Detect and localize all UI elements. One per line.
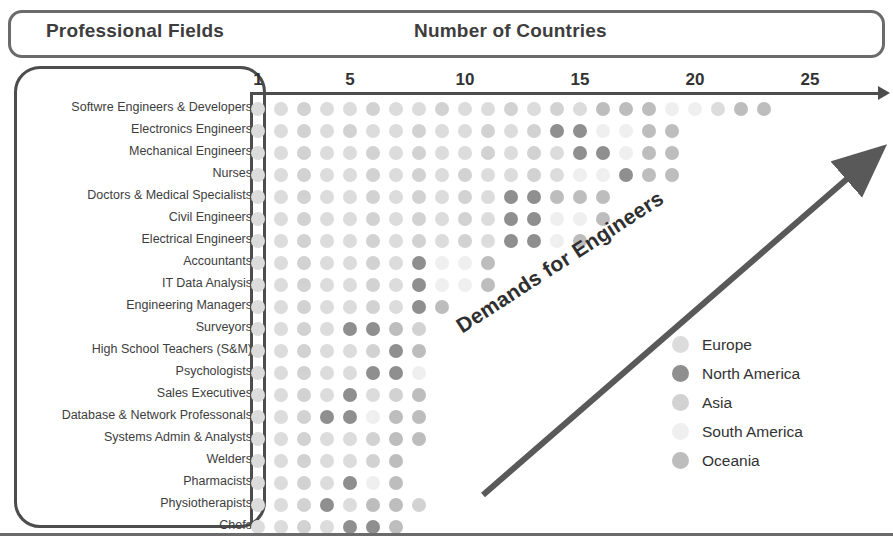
dot-marker — [274, 168, 288, 182]
dot-marker — [412, 322, 426, 336]
dot-marker — [251, 146, 265, 160]
dot-marker — [504, 124, 518, 138]
dot-marker — [412, 498, 426, 512]
dot-marker — [320, 520, 334, 534]
dot-marker — [343, 124, 357, 138]
dot-marker — [573, 212, 587, 226]
dot-marker — [320, 146, 334, 160]
dot-marker — [504, 234, 518, 248]
dot-marker — [412, 388, 426, 402]
dot-marker — [573, 124, 587, 138]
dot-marker — [389, 520, 403, 534]
dot-marker — [596, 168, 610, 182]
dot-marker — [435, 278, 449, 292]
x-tick-label: 5 — [345, 70, 354, 90]
x-axis-line — [252, 92, 882, 95]
dot-marker — [458, 168, 472, 182]
dot-marker — [297, 190, 311, 204]
dot-marker — [412, 278, 426, 292]
dot-marker — [297, 520, 311, 534]
dot-marker — [343, 102, 357, 116]
legend-item[interactable]: North America — [672, 359, 887, 388]
dot-marker — [435, 234, 449, 248]
dot-marker — [343, 366, 357, 380]
dot-marker — [412, 234, 426, 248]
dot-marker — [251, 432, 265, 446]
dot-marker — [527, 168, 541, 182]
dot-marker — [389, 124, 403, 138]
dot-marker — [389, 344, 403, 358]
dot-marker — [642, 168, 656, 182]
dot-marker — [343, 168, 357, 182]
dot-marker — [366, 234, 380, 248]
dot-marker — [550, 190, 564, 204]
header-number-of-countries: Number of Countries — [414, 20, 607, 42]
dot-marker — [274, 146, 288, 160]
dot-marker — [366, 146, 380, 160]
dot-marker — [343, 454, 357, 468]
dot-marker — [573, 146, 587, 160]
dot-marker — [343, 234, 357, 248]
dot-marker — [389, 190, 403, 204]
dot-marker — [297, 278, 311, 292]
legend-label: Europe — [702, 336, 752, 354]
dot-row — [0, 494, 893, 516]
dot-marker — [504, 146, 518, 160]
dot-marker — [435, 256, 449, 270]
dot-marker — [389, 454, 403, 468]
dot-marker — [274, 124, 288, 138]
dot-marker — [412, 212, 426, 226]
dot-marker — [527, 146, 541, 160]
dot-marker — [619, 102, 633, 116]
dot-marker — [412, 300, 426, 314]
legend-label: Oceania — [702, 452, 760, 470]
legend-item[interactable]: South America — [672, 417, 887, 446]
dot-marker — [435, 212, 449, 226]
dot-marker — [297, 146, 311, 160]
dot-marker — [366, 278, 380, 292]
legend-swatch-icon — [672, 423, 689, 440]
dot-marker — [366, 410, 380, 424]
dot-marker — [481, 168, 495, 182]
dot-marker — [274, 410, 288, 424]
dot-marker — [366, 190, 380, 204]
dot-marker — [297, 256, 311, 270]
dot-marker — [481, 102, 495, 116]
dot-marker — [596, 190, 610, 204]
legend: EuropeNorth AmericaAsiaSouth AmericaOcea… — [672, 330, 887, 475]
dot-marker — [251, 410, 265, 424]
dot-marker — [320, 168, 334, 182]
dot-marker — [366, 432, 380, 446]
dot-row — [0, 186, 893, 208]
dot-marker — [251, 234, 265, 248]
dot-marker — [251, 124, 265, 138]
dot-marker — [320, 234, 334, 248]
dot-marker — [665, 146, 679, 160]
legend-item[interactable]: Oceania — [672, 446, 887, 475]
dot-marker — [389, 212, 403, 226]
dot-marker — [320, 212, 334, 226]
dot-marker — [389, 476, 403, 490]
dot-marker — [688, 102, 702, 116]
dot-marker — [251, 278, 265, 292]
dot-marker — [642, 102, 656, 116]
dot-marker — [297, 432, 311, 446]
dot-marker — [481, 234, 495, 248]
dot-marker — [297, 410, 311, 424]
dot-marker — [435, 102, 449, 116]
dot-marker — [320, 476, 334, 490]
dot-marker — [366, 212, 380, 226]
dot-marker — [435, 168, 449, 182]
dot-marker — [481, 256, 495, 270]
dot-marker — [596, 124, 610, 138]
legend-item[interactable]: Asia — [672, 388, 887, 417]
dot-marker — [412, 344, 426, 358]
dot-marker — [665, 168, 679, 182]
dot-marker — [274, 498, 288, 512]
dot-marker — [412, 124, 426, 138]
dot-marker — [573, 190, 587, 204]
dot-marker — [458, 256, 472, 270]
legend-item[interactable]: Europe — [672, 330, 887, 359]
dot-marker — [343, 476, 357, 490]
dot-row — [0, 208, 893, 230]
